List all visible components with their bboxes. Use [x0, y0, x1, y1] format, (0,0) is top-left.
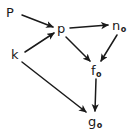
node-label-P: P: [6, 6, 14, 19]
arrow-k-to-p: [25, 33, 54, 52]
arrow-k-to-g0: [22, 62, 86, 112]
node-label-p: p: [57, 22, 65, 35]
node-label-f0: fo: [91, 64, 101, 77]
arrow-f0-to-g0: [95, 79, 96, 111]
node-subscript-glyph: o: [121, 25, 127, 34]
arrow-p-to-f0: [66, 37, 90, 61]
arrow-p-to-n0: [70, 25, 108, 28]
node-base-glyph: p: [57, 21, 65, 36]
node-base-glyph: n: [112, 18, 120, 33]
node-base-glyph: g: [88, 114, 96, 129]
node-label-k: k: [11, 48, 19, 61]
node-label-g0: go: [88, 115, 102, 128]
node-base-glyph: f: [91, 63, 96, 78]
arrow-n0-to-f0: [101, 35, 117, 61]
node-base-glyph: k: [11, 47, 19, 62]
node-label-n0: no: [112, 19, 126, 32]
commutative-diagram: P p no k fo go: [0, 0, 136, 135]
arrow-P-to-p: [22, 15, 53, 27]
node-subscript-glyph: o: [97, 121, 103, 130]
node-base-glyph: P: [6, 5, 14, 20]
node-subscript-glyph: o: [96, 70, 102, 79]
